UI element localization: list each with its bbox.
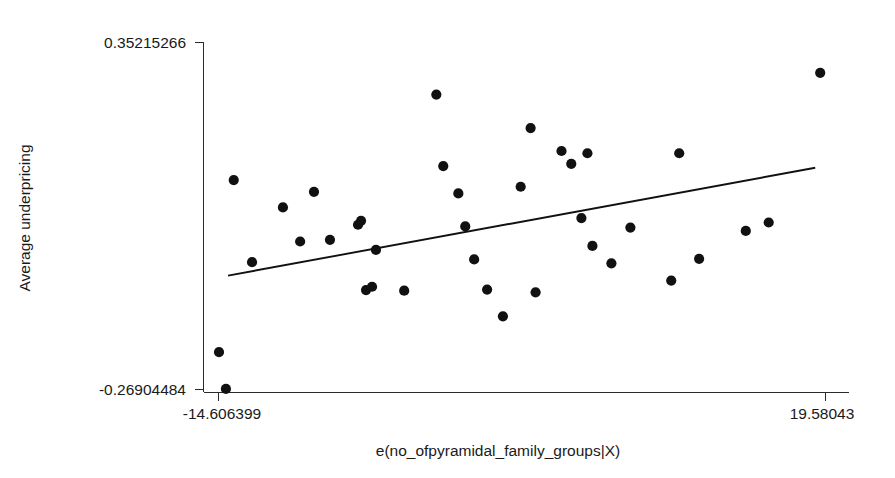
x-axis-title: e(no_ofpyramidal_family_groups|X) bbox=[376, 442, 620, 459]
data-point bbox=[666, 276, 676, 286]
data-point bbox=[399, 286, 409, 296]
data-point bbox=[741, 226, 751, 236]
data-point bbox=[469, 254, 479, 264]
y-axis-tick-label-bottom: -0.26904484 bbox=[99, 381, 186, 398]
data-point bbox=[221, 384, 231, 394]
data-point bbox=[229, 175, 239, 185]
data-point bbox=[453, 188, 463, 198]
x-axis-tick-label-left: -14.606399 bbox=[183, 405, 261, 422]
data-point bbox=[214, 347, 224, 357]
scatter-points-group bbox=[214, 68, 825, 394]
data-point bbox=[356, 216, 366, 226]
data-point bbox=[460, 221, 470, 231]
data-point bbox=[367, 282, 377, 292]
data-point bbox=[309, 187, 319, 197]
added-variable-plot-figure: 0.35215266 -0.26904484 -14.606399 19.580… bbox=[0, 0, 895, 478]
data-point bbox=[371, 245, 381, 255]
y-axis-title: Average underpricing bbox=[16, 144, 33, 291]
y-axis-tick-label-top: 0.35215266 bbox=[104, 34, 186, 51]
data-point bbox=[556, 146, 566, 156]
data-point bbox=[438, 161, 448, 171]
data-point bbox=[606, 258, 616, 268]
data-point bbox=[566, 159, 576, 169]
data-point bbox=[247, 257, 257, 267]
data-point bbox=[694, 254, 704, 264]
data-point bbox=[498, 311, 508, 321]
data-point bbox=[625, 222, 635, 232]
data-point bbox=[526, 123, 536, 133]
data-point bbox=[674, 148, 684, 158]
data-point bbox=[815, 68, 825, 78]
data-point bbox=[325, 235, 335, 245]
plot-canvas: 0.35215266 -0.26904484 -14.606399 19.580… bbox=[0, 0, 895, 478]
x-axis-tick-label-right: 19.58043 bbox=[790, 405, 855, 422]
data-point bbox=[482, 284, 492, 294]
data-point bbox=[431, 89, 441, 99]
data-point bbox=[587, 241, 597, 251]
data-point bbox=[516, 182, 526, 192]
data-point bbox=[576, 213, 586, 223]
data-point bbox=[278, 202, 288, 212]
data-point bbox=[295, 236, 305, 246]
data-point bbox=[764, 217, 774, 227]
data-point bbox=[582, 148, 592, 158]
data-point bbox=[530, 287, 540, 297]
